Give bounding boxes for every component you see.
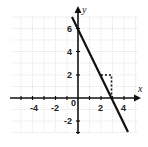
- x-axis: -4 -2 0 2 4 x: [10, 83, 143, 113]
- y-tick-label: -2: [64, 116, 72, 126]
- y-tick-label: 6: [67, 24, 72, 34]
- x-axis-label: x: [137, 83, 143, 94]
- y-axis-label: y: [81, 4, 87, 15]
- linear-function-line: [72, 17, 128, 132]
- x-tick-label: 4: [121, 103, 126, 113]
- y-axis-arrow-icon: [75, 6, 82, 13]
- coordinate-plane-chart: -4 -2 0 2 4 x 6 4 2 -2 y: [0, 0, 148, 147]
- x-tick-label: 0: [71, 98, 76, 108]
- y-tick-label: 2: [67, 70, 72, 80]
- y-tick-label: 4: [67, 47, 72, 57]
- x-tick-label: 2: [98, 103, 103, 113]
- x-tick-label: -2: [51, 103, 59, 113]
- x-tick-label: -4: [30, 103, 38, 113]
